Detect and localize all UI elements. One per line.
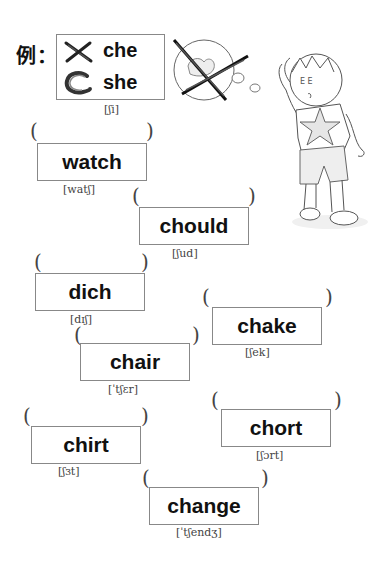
phonetic-change: [ˈtʃendʒ]	[176, 526, 222, 539]
answer-bracket-close: )	[334, 390, 342, 410]
answer-field-watch[interactable]	[44, 122, 144, 142]
phonetic-chort: [ʃɔrt]	[256, 449, 283, 462]
crossed-thought-bubble-icon	[168, 36, 268, 108]
answer-bracket-close: )	[141, 252, 149, 272]
word-box-chirt: chirt	[31, 426, 141, 464]
answer-field-chort[interactable]	[225, 392, 333, 408]
answer-bracket-close: )	[325, 287, 333, 307]
example-word-wrong: che	[103, 39, 137, 62]
cross-mark-icon	[63, 40, 95, 64]
circle-mark-icon	[63, 70, 93, 96]
word-box-chould: chould	[139, 207, 249, 245]
answer-field-chould[interactable]	[146, 188, 246, 208]
phonetic-chair: [ˈtʃɛr]	[108, 383, 138, 396]
example-phonetic: [ʃi]	[104, 103, 119, 116]
example-box: che she	[56, 34, 165, 100]
answer-bracket-close: )	[192, 325, 200, 345]
svg-text:E E: E E	[300, 77, 313, 86]
answer-bracket-close: )	[146, 121, 154, 141]
answer-bracket-open: (	[142, 468, 150, 488]
answer-bracket-open: (	[211, 390, 219, 410]
answer-field-dich[interactable]	[48, 254, 140, 272]
example-word-correct: she	[103, 71, 137, 94]
answer-bracket-close: )	[261, 468, 269, 488]
answer-bracket-close: )	[141, 406, 149, 426]
answer-field-change[interactable]	[156, 470, 260, 487]
answer-field-chair[interactable]	[88, 327, 188, 343]
word-box-change: change	[149, 487, 259, 525]
answer-bracket-close: )	[248, 186, 256, 206]
word-box-watch: watch	[37, 143, 147, 181]
phonetic-chould: [ʃud]	[172, 247, 198, 260]
answer-bracket-open: (	[34, 252, 42, 272]
answer-field-chake[interactable]	[216, 289, 324, 307]
thinking-boy-icon: E E	[270, 42, 370, 232]
answer-bracket-open: (	[23, 406, 31, 426]
word-box-chort: chort	[221, 409, 331, 447]
answer-bracket-open: (	[132, 186, 140, 206]
answer-bracket-open: (	[30, 121, 38, 141]
example-label: 例：	[16, 40, 58, 69]
phonetic-watch: [watʃ]	[63, 183, 95, 196]
answer-bracket-open: (	[202, 287, 210, 307]
word-box-dich: dich	[35, 273, 145, 311]
word-box-chake: chake	[212, 307, 322, 345]
phonetic-chake: [ʃek]	[245, 346, 270, 359]
phonetic-chirt: [ʃɜt]	[58, 465, 80, 478]
word-box-chair: chair	[80, 343, 190, 381]
answer-field-chirt[interactable]	[37, 408, 141, 426]
answer-bracket-open: (	[74, 325, 82, 345]
